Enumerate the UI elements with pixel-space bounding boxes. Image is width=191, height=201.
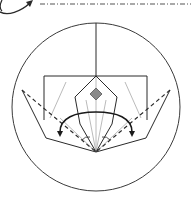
crease-lines <box>50 76 141 152</box>
squash-arrow-right-icon <box>129 131 135 137</box>
squash-arrow-left-icon <box>57 131 63 137</box>
reference-diamond-icon <box>90 88 102 100</box>
valley-fold-line-left <box>22 90 96 152</box>
curved-fold-arrow-icon <box>0 0 33 14</box>
origami-diagram: Origami folding step with squash-fold ar… <box>0 0 191 201</box>
